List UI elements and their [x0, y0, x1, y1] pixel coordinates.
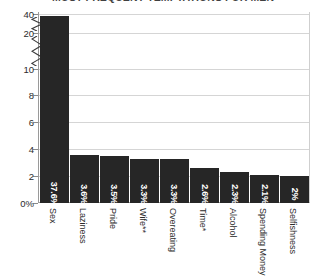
x-axis-category-label: Laziness	[78, 208, 88, 244]
bar-value-label: 2.6%	[200, 184, 210, 204]
bar-value-label: 3.3%	[169, 184, 179, 204]
x-axis-category-label: Spending Money	[258, 208, 268, 276]
x-axis-category-label: Alcohol	[228, 208, 238, 238]
bar-value-label: 2.3%	[230, 184, 240, 204]
y-axis-tick-label: 2	[0, 171, 34, 182]
y-axis-tick-label: 0%	[0, 198, 34, 209]
x-axis-category-label: Wife**	[138, 208, 148, 233]
bar[interactable]: 2%	[280, 176, 309, 203]
bar[interactable]: 37.6%	[40, 16, 69, 203]
bar-slot: 3.6%	[70, 12, 99, 203]
bar[interactable]: 3.6%	[70, 155, 99, 203]
bar-value-label: 2.1%	[260, 184, 270, 204]
bar-value-label: 3.5%	[109, 184, 119, 204]
bar[interactable]: 2.6%	[190, 168, 219, 203]
x-axis-category-label: Overeating	[168, 208, 178, 252]
bar-value-label: 3.6%	[79, 184, 89, 204]
bar-slot: 2%	[280, 12, 309, 203]
x-axis-category-label: Pride	[108, 208, 118, 229]
bar-slot: 37.6%	[40, 12, 69, 203]
bar-value-label: 2%	[290, 188, 300, 201]
y-axis-tick-label: 40	[0, 9, 34, 20]
bar[interactable]: 3.3%	[160, 159, 189, 203]
chart-title: MOST FREQUENT TEMPTATIONS FOR MEN	[0, 0, 326, 3]
bar-chart: MOST FREQUENT TEMPTATIONS FOR MEN 0%2468…	[0, 0, 326, 278]
y-axis-tick-label: 10	[0, 63, 34, 74]
bar-slot: 2.1%	[250, 12, 279, 203]
bar[interactable]: 3.3%	[130, 159, 159, 203]
bar[interactable]: 3.5%	[100, 156, 129, 203]
y-axis-tick-label: 6	[0, 117, 34, 128]
bar-slot: 2.6%	[190, 12, 219, 203]
y-axis-tick-label: 20	[0, 28, 34, 39]
bar-value-label: 3.3%	[139, 184, 149, 204]
x-axis-category-label: Sex	[48, 208, 58, 224]
y-axis-tick-label: 4	[0, 144, 34, 155]
bar-slot: 2.3%	[220, 12, 249, 203]
bar-slot: 3.3%	[130, 12, 159, 203]
bar-slot: 3.5%	[100, 12, 129, 203]
y-axis-tick-label: 8	[0, 90, 34, 101]
bar[interactable]: 2.3%	[220, 172, 249, 203]
x-axis-category-label: Time*	[198, 208, 208, 231]
bar-value-label: 37.6%	[49, 182, 59, 207]
bar[interactable]: 2.1%	[250, 175, 279, 203]
x-axis-category-label: Selfishness	[288, 208, 298, 254]
bar-slot: 3.3%	[160, 12, 189, 203]
bar-series: 37.6%3.6%3.5%3.3%3.3%2.6%2.3%2.1%2%	[39, 12, 310, 203]
